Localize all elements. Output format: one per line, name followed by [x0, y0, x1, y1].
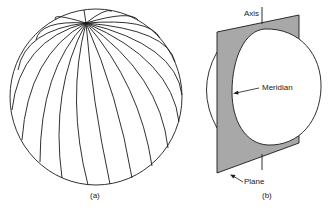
panel-b-caption: (b) [262, 192, 272, 200]
sphere-left-arc [207, 52, 218, 128]
meridian-figure: (a) Axis Meridian Plane (b) [0, 0, 328, 210]
sphere-meridians [10, 9, 182, 185]
plane-label: Plane [244, 178, 264, 186]
plane-arrowhead-icon [230, 175, 236, 179]
panel-a-sphere [0, 0, 328, 210]
axis-label: Axis [244, 10, 259, 18]
plane-arrow-line [233, 176, 243, 182]
panel-a-caption: (a) [90, 192, 100, 200]
meridian-label: Meridian [262, 84, 293, 92]
panel-b-plane-diagram [207, 7, 322, 182]
